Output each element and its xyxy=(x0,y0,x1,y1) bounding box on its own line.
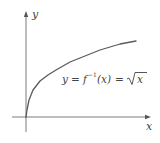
equation-lhs: y xyxy=(61,73,69,85)
equation-radicand: x xyxy=(137,73,143,85)
x-axis-arrow-icon xyxy=(145,115,151,119)
x-axis: x xyxy=(12,115,153,133)
y-axis-arrow-icon xyxy=(24,11,28,17)
function-graph-figure: x y y = f −1 (x) = x xyxy=(0,0,160,143)
equation-argument: (x) xyxy=(97,73,111,85)
equation-equals-1: = xyxy=(71,73,80,85)
equation-equals-2: = xyxy=(115,73,124,85)
x-axis-label: x xyxy=(146,120,153,133)
equation-inverse-exponent: −1 xyxy=(88,71,97,78)
equation-label: y = f −1 (x) = x xyxy=(61,71,147,85)
y-axis-label: y xyxy=(31,8,39,21)
